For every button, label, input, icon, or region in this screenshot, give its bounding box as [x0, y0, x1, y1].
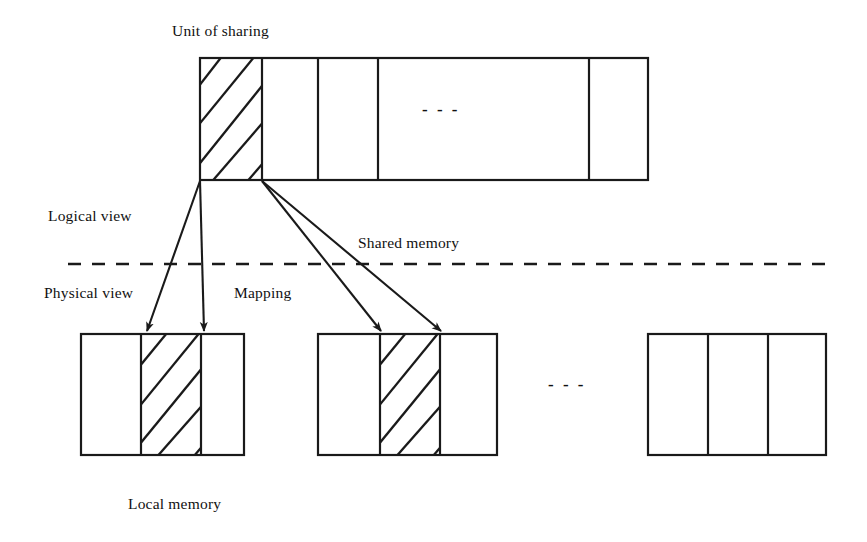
mapping-arrow-4 — [262, 181, 441, 331]
ellipsis-shared-memory: - - - — [422, 100, 460, 120]
local-memory-block-3 — [648, 334, 826, 455]
shared-memory-bar — [188, 40, 648, 206]
local-memory-block-2 — [318, 320, 497, 482]
label-local-memory: Local memory — [128, 495, 221, 513]
diagram-graphics — [0, 0, 867, 542]
label-mapping: Mapping — [234, 284, 291, 302]
local-memory-block-2-hatch — [369, 320, 455, 482]
label-logical-view: Logical view — [48, 207, 132, 225]
local-memory-block-3-outline — [648, 334, 826, 455]
diagram-canvas: Unit of sharing Logical view Shared memo… — [0, 0, 867, 542]
label-shared-memory: Shared memory — [358, 234, 459, 252]
mapping-arrow-1 — [147, 181, 200, 331]
ellipsis-local-memory: - - - — [548, 375, 586, 395]
local-memory-block-1-outline — [81, 334, 244, 455]
mapping-arrows — [147, 181, 441, 331]
local-memory-block-1-hatch — [130, 320, 216, 482]
mapping-arrow-2 — [200, 181, 204, 331]
local-memory-block-1 — [81, 320, 244, 482]
mapping-arrow-3 — [262, 181, 381, 331]
label-unit-of-sharing: Unit of sharing — [172, 22, 269, 40]
local-memory-block-2-outline — [318, 334, 497, 455]
label-physical-view: Physical view — [44, 284, 133, 302]
